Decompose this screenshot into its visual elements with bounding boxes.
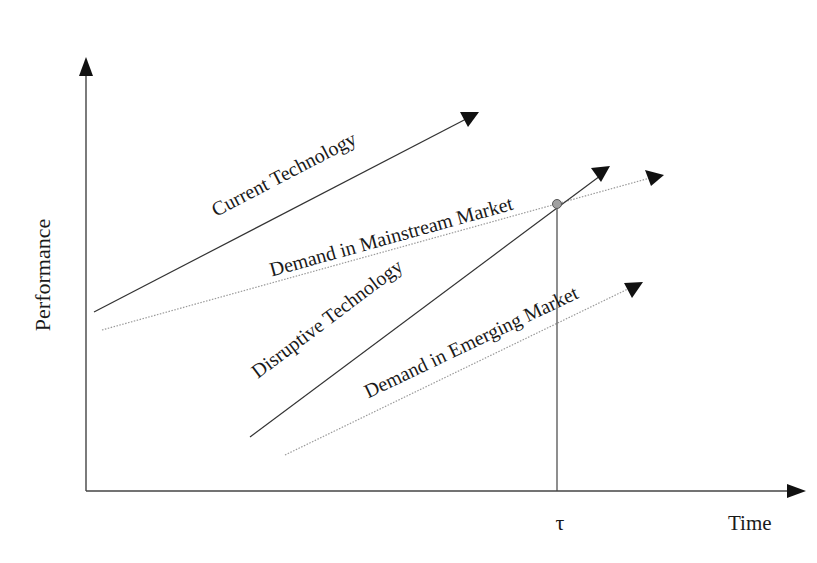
arrowhead-icon bbox=[591, 166, 610, 182]
x-axis bbox=[86, 484, 806, 498]
arrowhead-icon bbox=[645, 170, 664, 186]
line-current-technology bbox=[94, 112, 479, 312]
label-current-technology: Current Technology bbox=[208, 127, 360, 221]
line-demand-mainstream bbox=[102, 170, 664, 330]
intersection-point bbox=[553, 200, 562, 209]
arrowhead-icon bbox=[460, 112, 479, 127]
x-axis-label: Time bbox=[728, 511, 772, 535]
y-axis-label: Performance bbox=[30, 219, 55, 331]
technology-disruption-diagram: Performance Time τ Current Technology De… bbox=[0, 0, 817, 563]
x-axis-arrow-icon bbox=[787, 484, 806, 498]
arrowhead-icon bbox=[624, 282, 643, 298]
y-axis bbox=[79, 57, 93, 491]
label-demand-emerging: Demand in Emerging Market bbox=[360, 281, 582, 403]
y-axis-arrow-icon bbox=[79, 57, 93, 76]
tau-marker-label: τ bbox=[556, 510, 565, 535]
